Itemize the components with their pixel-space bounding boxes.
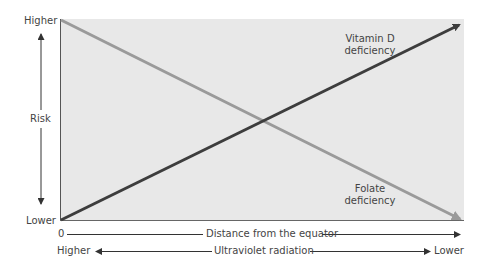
y-axis-bottom-label: Lower [26, 215, 56, 227]
folate-label: Folate deficiency [335, 183, 405, 207]
vitamin-d-label-line2: deficiency [335, 45, 405, 57]
uv-axis-title: Ultraviolet radiation [214, 245, 314, 257]
folate-label-line1: Folate [335, 183, 405, 195]
y-axis-title: Risk [30, 113, 51, 125]
uv-lower-label: Lower [434, 245, 464, 257]
x-axis-origin: 0 [58, 228, 64, 240]
vitamin-d-label: Vitamin D deficiency [335, 33, 405, 57]
folate-label-line2: deficiency [335, 195, 405, 207]
y-axis-top-label: Higher [24, 15, 57, 27]
x-axis-title: Distance from the equator [206, 228, 338, 240]
vitamin-d-label-line1: Vitamin D [335, 33, 405, 45]
uv-higher-label: Higher [57, 245, 90, 257]
